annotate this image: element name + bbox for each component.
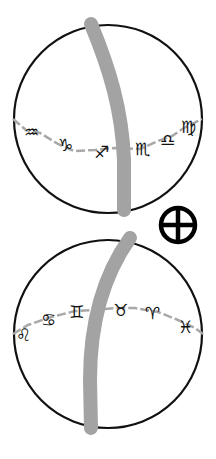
bottom-milky-way-band (90, 238, 130, 428)
sagittarius-icon: ♐ (94, 142, 109, 162)
earth-symbol-icon (161, 208, 195, 242)
scorpio-icon: ♏ (135, 139, 150, 159)
capricorn-icon: ♑ (58, 135, 73, 155)
gemini-icon: ♊ (69, 302, 84, 322)
taurus-icon: ♉ (113, 300, 128, 320)
cancer-icon: ♋ (41, 310, 56, 330)
top-milky-way-band (91, 24, 124, 210)
leo-icon: ♌ (16, 325, 31, 345)
bottom-sphere: ♌ ♋ ♊ ♉ ♈ ♓ (13, 238, 203, 428)
libra-icon: ♎ (160, 130, 175, 150)
aries-icon: ♈ (145, 303, 160, 323)
pisces-icon: ♓ (178, 317, 193, 337)
top-sphere: ♒ ♑ ♐ ♏ ♎ ♍ (13, 24, 202, 213)
virgo-icon: ♍ (181, 117, 196, 137)
aquarius-icon: ♒ (24, 122, 39, 142)
celestial-sphere-diagram: ♒ ♑ ♐ ♏ ♎ ♍ ♌ ♋ ♊ ♉ ♈ ♓ (0, 0, 216, 459)
